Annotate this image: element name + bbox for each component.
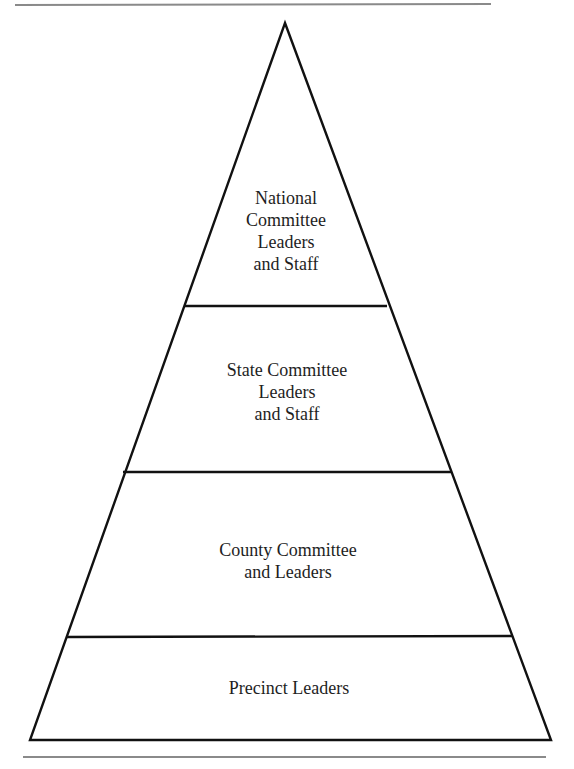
tier-national-line-2: Committee: [246, 210, 326, 230]
tier-state-line-3: and Staff: [254, 404, 319, 424]
tier-state-line-2: Leaders: [259, 382, 316, 402]
tier-county: County Committee and Leaders: [219, 540, 357, 582]
divider-county-precinct: [66, 636, 512, 637]
pyramid-figure: National Committee Leaders and Staff Sta…: [0, 0, 574, 769]
tier-national: National Committee Leaders and Staff: [246, 188, 326, 274]
tier-state-line-1: State Committee: [227, 360, 347, 380]
tier-national-line-3: Leaders: [258, 232, 315, 252]
tier-state: State Committee Leaders and Staff: [227, 360, 347, 424]
tier-precinct: Precinct Leaders: [229, 678, 349, 698]
tier-county-line-1: County Committee: [219, 540, 357, 560]
tier-national-line-4: and Staff: [253, 254, 318, 274]
tier-national-line-1: National: [255, 188, 317, 208]
top-rule: [15, 4, 491, 5]
tier-county-line-2: and Leaders: [244, 562, 331, 582]
tier-precinct-line-1: Precinct Leaders: [229, 678, 349, 698]
